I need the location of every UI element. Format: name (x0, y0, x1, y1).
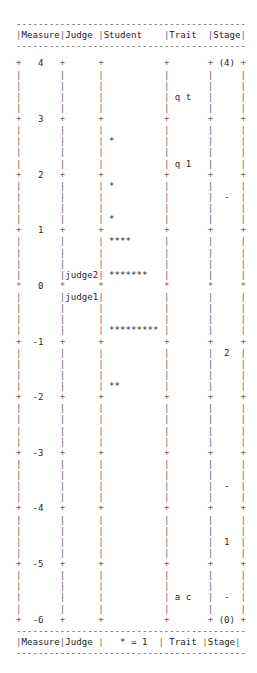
column-divider: | (241, 181, 246, 191)
map-row: | | | | | | (16, 426, 246, 437)
trait-cell (169, 359, 207, 369)
judge-cell (65, 248, 98, 258)
trait-cell (169, 348, 207, 358)
map-row: | | | | | | (16, 581, 246, 592)
column-divider: | (241, 147, 246, 157)
column-divider: | (241, 481, 246, 491)
measure-cell (21, 592, 59, 602)
stage-cell (213, 581, 240, 591)
judge-cell (65, 548, 98, 558)
trait-cell (169, 281, 207, 291)
measure-cell (21, 414, 59, 424)
stage-cell (213, 359, 240, 369)
column-divider: | (241, 70, 246, 80)
measure-cell (21, 292, 59, 302)
student-cell (104, 147, 164, 157)
judge-cell (65, 236, 98, 246)
column-divider: | (241, 125, 246, 135)
header-measure: Measure (21, 30, 59, 40)
judge-cell (65, 581, 98, 591)
judge-cell (65, 359, 98, 369)
stage-cell (213, 381, 240, 391)
stage-cell (213, 325, 240, 335)
measure-cell (21, 537, 59, 547)
column-divider: | (241, 592, 246, 602)
trait-cell (169, 103, 207, 113)
judge-cell (65, 203, 98, 213)
column-divider: | (241, 348, 246, 358)
student-cell (104, 459, 164, 469)
trait-cell (169, 381, 207, 391)
stage-cell (213, 503, 240, 513)
column-divider: | (241, 203, 246, 213)
column-divider: + (241, 225, 246, 235)
measure-cell (21, 370, 59, 380)
map-row: | | | | | | (16, 492, 246, 503)
trait-cell (169, 448, 207, 458)
stage-cell: (0) (213, 615, 240, 625)
stage-cell (213, 403, 240, 413)
column-divider: | (241, 548, 246, 558)
footer-legend: * = 1 (104, 637, 148, 647)
footer-rule-bottom: ----------------------------------------… (16, 648, 246, 659)
measure-cell (21, 159, 59, 169)
column-divider: | (241, 81, 246, 91)
student-cell (104, 392, 164, 402)
judge-cell (65, 181, 98, 191)
measure-cell: -6 (21, 615, 59, 625)
column-divider: + (241, 170, 246, 180)
column-divider: | (241, 292, 246, 302)
judge-cell (65, 125, 98, 135)
stage-cell (213, 526, 240, 536)
judge-cell (65, 526, 98, 536)
measure-cell: -2 (21, 392, 59, 402)
map-row: | | | ********* | | | (16, 325, 246, 336)
student-cell (104, 348, 164, 358)
trait-cell (169, 604, 207, 614)
column-divider: | (241, 259, 246, 269)
trait-cell (169, 70, 207, 80)
judge-cell (65, 515, 98, 525)
judge-cell (65, 403, 98, 413)
trait-cell (169, 526, 207, 536)
trait-cell (169, 492, 207, 502)
trait-cell (169, 136, 207, 146)
judge-cell (65, 470, 98, 480)
trait-cell (169, 170, 207, 180)
map-row: | | | | | | (16, 314, 246, 325)
map-row: | | | * | | | (16, 181, 246, 192)
student-cell (104, 470, 164, 480)
student-cell (104, 537, 164, 547)
measure-cell (21, 181, 59, 191)
judge-cell (65, 570, 98, 580)
stage-cell (213, 170, 240, 180)
measure-tick-row: + -5 + + + + + (16, 559, 246, 570)
measure-cell (21, 437, 59, 447)
student-cell (104, 259, 164, 269)
column-divider: | (241, 537, 246, 547)
trait-cell (169, 559, 207, 569)
student-cell (104, 203, 164, 213)
measure-cell: 3 (21, 114, 59, 124)
column-divider: | (241, 248, 246, 258)
judge-cell (65, 325, 98, 335)
stage-cell (213, 92, 240, 102)
student-cell (104, 92, 164, 102)
student-cell (104, 403, 164, 413)
header-stage: Stage (213, 30, 240, 40)
trait-cell (169, 259, 207, 269)
header-rule: ----------------------------------------… (16, 41, 246, 52)
judge-cell (65, 381, 98, 391)
judge-cell (65, 448, 98, 458)
column-divider: | (241, 325, 246, 335)
student-cell (104, 370, 164, 380)
judge-cell (65, 214, 98, 224)
judge-cell (65, 70, 98, 80)
column-divider: | (241, 492, 246, 502)
judge-cell (65, 604, 98, 614)
trait-cell (169, 426, 207, 436)
measure-cell (21, 348, 59, 358)
trait-cell (169, 570, 207, 580)
stage-cell: 2 (213, 348, 240, 358)
column-divider: | (241, 381, 246, 391)
